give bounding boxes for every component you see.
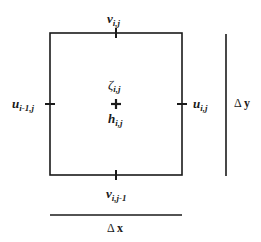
dy-label: Δ y	[234, 97, 250, 109]
delta-symbol: Δ	[234, 96, 241, 110]
right-u-subscript: i,j	[200, 103, 207, 113]
grid-cell-diagram	[0, 0, 261, 242]
zeta-subscript: i,j	[113, 84, 120, 94]
dx-label: Δ x	[107, 222, 123, 234]
top-v-label: vi,j	[107, 12, 120, 28]
center-h-label: hi,j	[108, 112, 123, 128]
dy-variable: y	[244, 96, 250, 110]
delta-symbol: Δ	[107, 221, 114, 235]
left-u-label: ui-1,j	[12, 97, 34, 113]
top-v-subscript: i,j	[113, 18, 120, 28]
right-u-label: ui,j	[193, 97, 208, 113]
center-plus-icon	[111, 99, 121, 109]
center-zeta-label: ζi,j	[108, 78, 121, 94]
bottom-v-label: vi,j-1	[106, 187, 127, 203]
h-subscript: i,j	[115, 118, 122, 128]
left-u-subscript: i-1,j	[19, 103, 34, 113]
bottom-v-subscript: i,j-1	[112, 193, 127, 203]
dx-variable: x	[117, 221, 123, 235]
